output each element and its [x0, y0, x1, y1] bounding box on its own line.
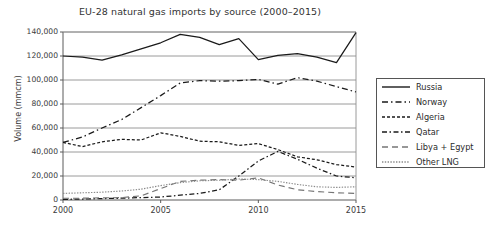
legend-line-sample-algeria [381, 112, 411, 122]
legend-item-russia: Russia [377, 79, 484, 94]
legend-label: Libya + Egypt [416, 142, 474, 152]
series-line-norway [63, 78, 356, 143]
legend-item-norway: Norway [377, 94, 484, 109]
series-line-russia [63, 33, 356, 63]
legend-label: Other LNG [416, 157, 459, 167]
legend-item-libya-egypt: Libya + Egypt [377, 139, 484, 154]
chart-legend: Russia Norway Algeria Qatar Libya + Egyp… [376, 78, 485, 168]
series-line-algeria [63, 133, 356, 167]
legend-item-other-lng: Other LNG [377, 154, 484, 169]
chart-figure: EU-28 natural gas imports by source (200… [0, 0, 487, 247]
series-line-libya-egypt [63, 178, 356, 198]
legend-item-qatar: Qatar [377, 124, 484, 139]
legend-label: Algeria [416, 112, 445, 122]
legend-line-sample-russia [381, 82, 411, 92]
legend-line-sample-norway [381, 97, 411, 107]
legend-label: Norway [416, 97, 447, 107]
legend-line-sample-qatar [381, 127, 411, 137]
legend-line-sample-libya-egypt [381, 142, 411, 152]
legend-label: Russia [416, 82, 442, 92]
legend-line-sample-other-lng [381, 157, 411, 167]
legend-label: Qatar [416, 127, 439, 137]
legend-item-algeria: Algeria [377, 109, 484, 124]
